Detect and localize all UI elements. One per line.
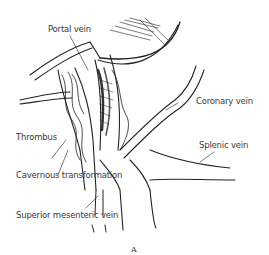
label-coronary-vein: Coronary vein [196, 97, 253, 106]
anatomical-illustration: Portal vein Coronary vein Thrombus Caver… [0, 0, 269, 255]
label-splenic-vein: Splenic vein [199, 141, 248, 150]
label-portal-vein: Portal vein [48, 25, 91, 34]
label-thrombus: Thrombus [16, 133, 57, 142]
label-cavernous-transformation: Cavernous transformation [16, 171, 122, 180]
panel-letter: A [131, 245, 137, 254]
label-superior-mesenteric-vein: Superior mesenteric vein [16, 211, 118, 220]
